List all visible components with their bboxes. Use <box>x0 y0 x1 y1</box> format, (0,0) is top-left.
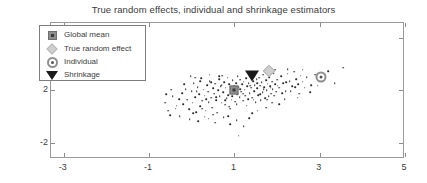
scatter-point <box>221 84 223 86</box>
legend-label: Global mean <box>64 28 109 42</box>
x-tick-mark <box>234 153 235 157</box>
y-tick-label: -2 <box>40 137 48 147</box>
scatter-point <box>208 118 210 120</box>
scatter-point <box>223 82 225 84</box>
y-tick-mark <box>399 38 403 39</box>
y-tick-mark <box>399 90 403 91</box>
scatter-point <box>243 93 245 95</box>
legend-item-global-mean[interactable]: Global mean <box>40 28 147 42</box>
legend-label: True random effect <box>64 42 131 56</box>
scatter-point <box>219 95 221 97</box>
scatter-point <box>224 104 226 106</box>
scatter-point <box>277 85 279 87</box>
scatter-point <box>235 82 237 84</box>
scatter-point <box>211 107 213 109</box>
scatter-point <box>202 100 204 102</box>
x-tick-mark <box>320 153 321 157</box>
scatter-point <box>239 88 241 90</box>
scatter-point <box>268 95 270 97</box>
scatter-point <box>247 98 249 100</box>
scatter-point <box>267 83 269 85</box>
scatter-point <box>176 105 178 107</box>
scatter-point <box>197 86 199 88</box>
scatter-point <box>306 76 308 78</box>
scatter-point <box>231 99 233 101</box>
scatter-point <box>260 99 262 101</box>
chart-legend[interactable]: Global mean True random effect Individua… <box>39 25 146 81</box>
scatter-point <box>249 85 251 87</box>
x-tick-mark <box>149 153 150 157</box>
scatter-point <box>278 87 280 89</box>
scatter-point <box>196 90 198 92</box>
x-tick-mark <box>405 153 406 157</box>
legend-label: Shrinkage <box>64 68 100 82</box>
scatter-point <box>256 82 258 84</box>
x-tick-label: -1 <box>144 162 152 172</box>
scatter-point <box>276 79 278 81</box>
scatter-point <box>165 94 167 96</box>
scatter-point <box>317 85 319 87</box>
legend-item-shrinkage[interactable]: Shrinkage <box>40 68 147 82</box>
legend-label: Individual <box>64 55 98 69</box>
scatter-point <box>270 93 272 95</box>
scatter-point <box>253 90 255 92</box>
scatter-point <box>263 88 265 90</box>
scatter-point <box>167 110 169 112</box>
scatter-point <box>172 95 174 97</box>
scatter-point <box>294 86 296 88</box>
scatter-point <box>189 119 191 121</box>
scatter-point <box>262 92 264 94</box>
scatter-point <box>293 71 295 73</box>
x-tick-mark <box>234 23 235 27</box>
scatter-point <box>214 83 216 85</box>
scatter-point <box>271 81 273 83</box>
scatter-point <box>190 76 192 78</box>
scatter-point <box>204 116 206 118</box>
chart-figure: True random effects, individual and shri… <box>0 0 427 183</box>
scatter-point <box>227 77 229 79</box>
legend-item-true-random-effect[interactable]: True random effect <box>40 42 147 56</box>
scatter-point <box>193 82 195 84</box>
scatter-point <box>237 76 239 78</box>
x-tick-label: 5 <box>401 162 406 172</box>
scatter-point <box>205 98 207 100</box>
scatter-point <box>252 113 254 115</box>
scatter-point <box>197 121 199 123</box>
scatter-point <box>246 86 248 88</box>
scatter-point <box>228 106 230 108</box>
individual-marker <box>315 72 326 83</box>
scatter-point <box>290 90 292 92</box>
scatter-point <box>266 90 268 92</box>
scatter-point <box>216 96 218 98</box>
triangle-down-icon <box>40 68 64 82</box>
scatter-point <box>243 125 245 127</box>
scatter-point <box>236 103 238 105</box>
scatter-point <box>291 86 293 88</box>
legend-item-individual[interactable]: Individual <box>40 55 147 69</box>
scatter-point <box>302 69 304 71</box>
scatter-point <box>225 99 227 101</box>
scatter-point <box>214 122 216 124</box>
y-tick-mark <box>51 143 55 144</box>
scatter-point <box>194 77 196 79</box>
scatter-point <box>266 99 268 101</box>
scatter-point <box>229 123 231 125</box>
scatter-point <box>223 117 225 119</box>
scatter-point <box>255 101 257 103</box>
scatter-point <box>217 112 219 114</box>
scatter-point <box>234 101 236 103</box>
scatter-point <box>283 82 285 84</box>
scatter-point <box>165 102 167 104</box>
scatter-point <box>244 89 246 91</box>
scatter-point <box>263 74 265 76</box>
scatter-point <box>212 114 214 116</box>
chart-title: True random effects, individual and shri… <box>0 4 427 15</box>
scatter-point <box>265 80 267 82</box>
scatter-point <box>219 76 221 78</box>
scatter-point <box>239 96 241 98</box>
global-mean-marker <box>230 85 239 94</box>
scatter-point <box>304 87 306 89</box>
scatter-point <box>249 92 251 94</box>
scatter-point <box>298 93 300 95</box>
scatter-point <box>217 90 219 92</box>
